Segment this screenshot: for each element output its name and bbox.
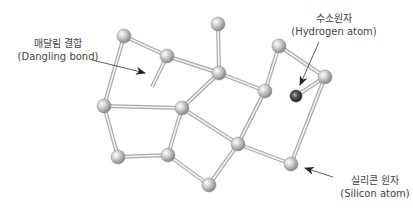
hydrogen-atom-label: 수소원자 (Hydrogen atom) xyxy=(290,12,378,38)
silicon-atom-label-en: (Silicon atom) xyxy=(336,187,413,200)
silicon-arrow xyxy=(305,168,333,177)
atoms-layer xyxy=(97,17,332,192)
silicon-atom xyxy=(161,148,175,162)
bond-highlight xyxy=(219,73,265,91)
hydrogen-atom-label-en: (Hydrogen atom) xyxy=(290,25,378,38)
bond-highlight xyxy=(167,56,219,73)
silicon-atom xyxy=(258,84,272,98)
silicon-atom xyxy=(117,29,131,43)
dangling-bond-label-en: (Dangling bond) xyxy=(8,50,108,63)
silicon-atom xyxy=(272,39,286,53)
silicon-atom xyxy=(211,17,225,31)
silicon-atom xyxy=(111,150,125,164)
hydrogen-atom-label-ko: 수소원자 xyxy=(290,12,378,25)
dangling-bond-label: 매달림 결합 (Dangling bond) xyxy=(8,37,108,63)
bond-highlight xyxy=(104,106,118,157)
silicon-atom xyxy=(284,157,298,171)
bond-highlight xyxy=(238,144,291,164)
bond-highlight xyxy=(209,144,238,185)
silicon-atom xyxy=(318,70,332,84)
bond-highlight xyxy=(168,108,182,155)
silicon-atom xyxy=(175,101,189,115)
bond-highlight xyxy=(279,46,325,77)
silicon-atom xyxy=(160,49,174,63)
bond-highlight xyxy=(218,24,219,73)
bond-highlight xyxy=(238,91,265,144)
silicon-atom xyxy=(97,99,111,113)
silicon-atom xyxy=(202,178,216,192)
hydrogen-atom xyxy=(290,90,302,102)
silicon-atom xyxy=(212,66,226,80)
silicon-atom-label: 실리콘 원자 (Silicon atom) xyxy=(336,174,413,200)
silicon-atom-label-ko: 실리콘 원자 xyxy=(336,174,413,187)
bond-highlight xyxy=(168,155,209,185)
bond-highlight xyxy=(182,73,219,108)
dangling-bond-label-ko: 매달림 결합 xyxy=(8,37,108,50)
bond-highlight xyxy=(182,108,238,144)
silicon-atom xyxy=(231,137,245,151)
